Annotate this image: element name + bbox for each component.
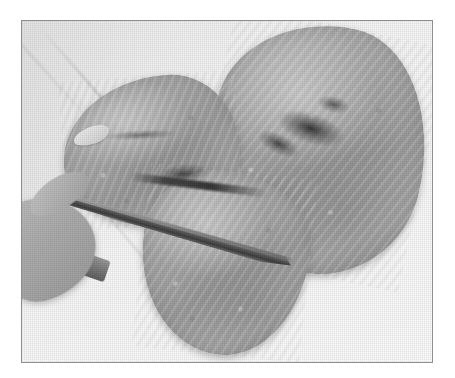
- photograph-canvas: [22, 21, 432, 362]
- photograph-frame: [21, 20, 433, 363]
- page-root: [0, 0, 455, 378]
